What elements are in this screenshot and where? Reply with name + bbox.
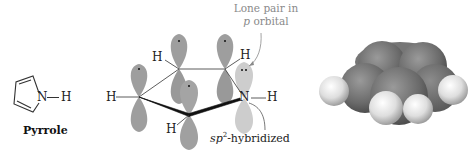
pyrrole-skeletal-structure bbox=[14, 76, 39, 112]
hydrogen-atom-left bbox=[319, 76, 349, 106]
pyrrole-h-label: H bbox=[61, 90, 71, 104]
space-filling-model bbox=[319, 41, 468, 125]
h-label-on-n: H bbox=[267, 90, 277, 104]
n-label: N bbox=[239, 90, 250, 104]
pyrrole-n-label: N bbox=[37, 90, 48, 104]
hydrogen-atom-front-left bbox=[369, 91, 403, 125]
lone-pair-annotation: Lone pair in p orbital bbox=[232, 2, 300, 28]
lone-pair-dot bbox=[241, 69, 243, 71]
hydrogen-atom-right bbox=[438, 75, 468, 105]
h-label-left: H bbox=[106, 90, 116, 104]
h-label-top-right: H bbox=[240, 48, 250, 62]
h-label-top-left: H bbox=[152, 50, 162, 64]
hydrogen-atom-front-right bbox=[403, 94, 433, 124]
p-orbital-lobe-bottom bbox=[131, 97, 148, 132]
lone-pair-dot bbox=[245, 69, 247, 71]
h-label-bottom: H bbox=[166, 122, 176, 136]
pyrrole-caption: Pyrrole bbox=[23, 124, 68, 137]
pyrrole-nh-bond bbox=[47, 97, 59, 98]
sp2-hybridized-annotation: sp2-hybridized bbox=[210, 131, 290, 145]
lone-pair-line1: Lone pair in bbox=[232, 2, 300, 15]
lone-pair-line2: p orbital bbox=[232, 15, 300, 28]
